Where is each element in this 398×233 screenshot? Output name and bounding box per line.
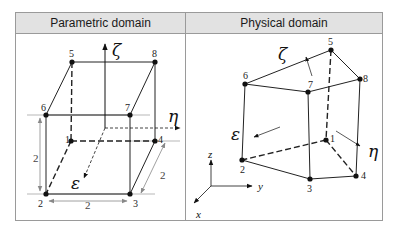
- node-label-3: 3: [133, 198, 138, 209]
- node-label-2: 2: [38, 198, 43, 209]
- figure: Parametric domain Physical domain: [0, 0, 398, 233]
- node-label-4: 4: [158, 134, 163, 145]
- diagram-canvas: 1 2 3 4 5 6 7 8 ζ η ε 2 2 2: [0, 0, 398, 233]
- node-label-5: 5: [328, 36, 333, 47]
- node-label-6: 6: [41, 102, 46, 113]
- epsilon-axis-label: ε: [231, 124, 240, 144]
- eta-axis-label: η: [368, 141, 379, 161]
- node-label-2: 2: [240, 164, 245, 175]
- node-label-5: 5: [69, 48, 74, 59]
- node-label-1: 1: [330, 133, 335, 144]
- zeta-axis-label: ζ: [112, 40, 123, 60]
- x-axis-label: x: [195, 208, 201, 220]
- epsilon-axis-label: ε: [71, 173, 80, 193]
- node-label-4: 4: [361, 170, 366, 181]
- zeta-axis-label: ζ: [278, 44, 289, 64]
- z-axis-label: z: [207, 148, 213, 160]
- node-label-8: 8: [152, 48, 157, 59]
- physical-hexahedron: [194, 50, 360, 203]
- y-axis-label: y: [257, 180, 263, 192]
- dimension-width: 2: [85, 199, 91, 211]
- dimension-height: 2: [33, 152, 39, 164]
- node-label-6: 6: [243, 70, 248, 81]
- node-label-1: 1: [65, 134, 70, 145]
- eta-axis-label: η: [168, 106, 179, 126]
- parametric-cube: [27, 44, 180, 201]
- node-label-7: 7: [125, 102, 130, 113]
- dimension-depth: 2: [160, 169, 166, 181]
- node-label-3: 3: [307, 183, 312, 194]
- node-label-8: 8: [363, 73, 368, 84]
- node-label-7: 7: [308, 79, 313, 90]
